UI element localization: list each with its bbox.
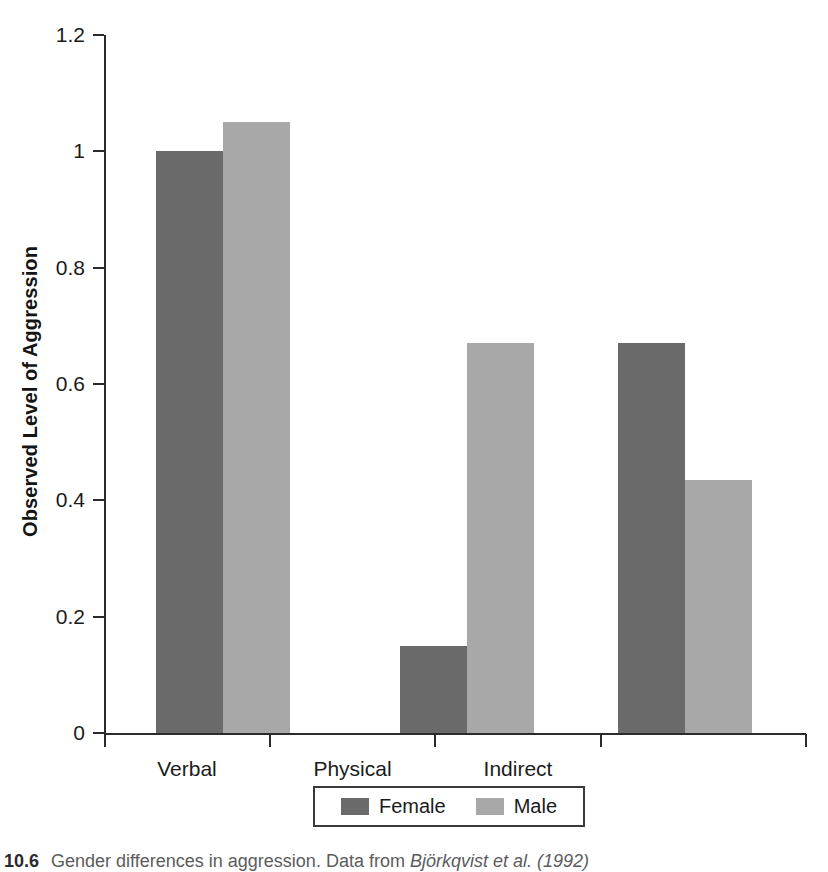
bar-physical-male (467, 343, 534, 733)
x-category-label-verbal: Verbal (157, 757, 217, 781)
y-axis-title: Observed Level of Aggression (19, 222, 42, 562)
y-tick-label: 1.2 (56, 23, 85, 47)
x-tick-mark (434, 734, 436, 747)
y-tick-mark: 1.2 (93, 34, 104, 36)
x-tick-mark (104, 734, 106, 747)
x-tick-mark (269, 734, 271, 747)
bar-indirect-male (685, 480, 752, 733)
y-tick-label: 0.6 (56, 372, 85, 396)
plot-area: 00.20.40.60.811.2 VerbalPhysicalIndirect (104, 35, 806, 733)
bar-physical-female (400, 646, 467, 733)
legend-swatch-female-icon (341, 798, 369, 815)
x-tick-mark (805, 734, 807, 747)
y-tick-label: 0.8 (56, 256, 85, 280)
y-tick-mark: 0.4 (93, 499, 104, 501)
y-tick-mark: 0.8 (93, 267, 104, 269)
y-axis-line (104, 35, 106, 734)
chart-legend: Female Male (313, 786, 585, 827)
bar-indirect-female (618, 343, 685, 733)
figure-caption-citation: Björkqvist et al. (1992) (410, 851, 589, 871)
figure-caption-number: 10.6 (4, 851, 39, 871)
bar-verbal-female (156, 151, 223, 733)
y-tick-mark: 1 (93, 150, 104, 152)
y-tick-label: 0 (73, 721, 85, 745)
y-tick-label: 0.4 (56, 488, 85, 512)
y-tick-label: 1 (73, 139, 85, 163)
y-tick-label: 0.2 (56, 605, 85, 629)
x-axis-line (104, 733, 806, 735)
x-category-label-physical: Physical (313, 757, 391, 781)
legend-label-male: Male (514, 795, 557, 818)
legend-entry-female: Female (341, 795, 446, 818)
legend-label-female: Female (379, 795, 446, 818)
y-tick-mark: 0 (93, 732, 104, 734)
y-tick-mark: 0.2 (93, 616, 104, 618)
x-tick-mark (600, 734, 602, 747)
x-category-label-indirect: Indirect (484, 757, 553, 781)
legend-entry-male: Male (476, 795, 557, 818)
figure-caption-text: Gender differences in aggression. Data f… (51, 851, 410, 871)
y-tick-mark: 0.6 (93, 383, 104, 385)
figure-caption: 10.6Gender differences in aggression. Da… (4, 851, 828, 872)
bar-verbal-male (223, 122, 290, 733)
legend-swatch-male-icon (476, 798, 504, 815)
